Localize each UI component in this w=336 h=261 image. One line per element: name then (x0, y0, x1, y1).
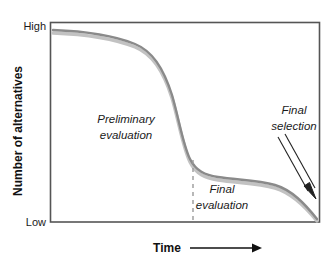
final-evaluation-line1: Final (210, 183, 235, 195)
chart-figure: High Low Number of alternatives Time Pre… (0, 0, 336, 261)
final-selection-line1: Final (282, 104, 307, 116)
y-tick-high: High (23, 20, 46, 32)
preliminary-evaluation-line1: Preliminary (97, 113, 156, 125)
x-axis-arrow-icon (190, 244, 262, 253)
y-tick-low: Low (26, 216, 46, 228)
y-axis-title: Number of alternatives (11, 66, 25, 196)
chart-canvas: High Low Number of alternatives Time Pre… (0, 0, 336, 261)
final-selection-line2: selection (271, 120, 316, 132)
preliminary-evaluation-line2: evaluation (100, 129, 152, 141)
x-axis-title: Time (153, 241, 181, 255)
final-evaluation-line2: evaluation (196, 199, 248, 211)
